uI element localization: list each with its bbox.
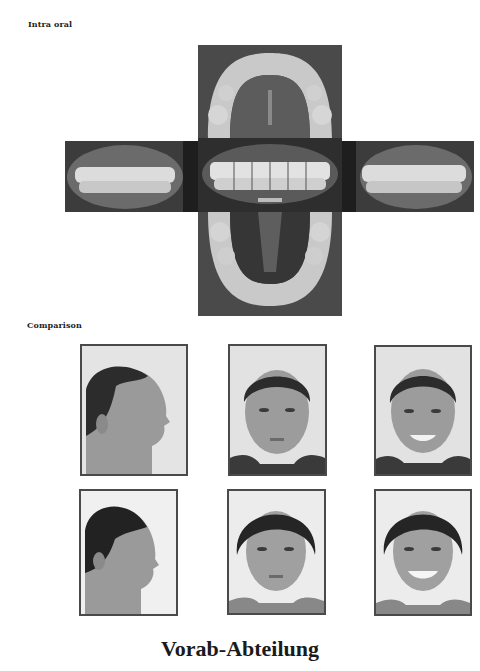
right-buccal-photo	[65, 141, 198, 212]
left-buccal-photo	[342, 141, 474, 212]
profile-photo-before	[80, 344, 188, 476]
frontal-teeth-photo	[198, 138, 342, 212]
frontal-photo-before	[228, 344, 327, 476]
section-label-intra-oral: Intra oral	[28, 19, 72, 29]
profile-photo-after	[79, 489, 178, 616]
frontal-photo-after	[227, 489, 326, 615]
lower-arch-photo	[198, 212, 342, 316]
smiling-photo-after	[374, 489, 472, 616]
section-label-comparison: Comparison	[27, 320, 82, 330]
smiling-photo-before	[374, 345, 472, 476]
caption-text: Vorab-Abteilung	[0, 636, 480, 662]
upper-arch-photo	[198, 45, 342, 138]
